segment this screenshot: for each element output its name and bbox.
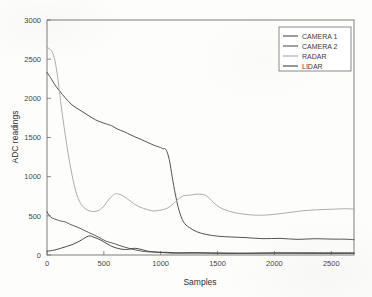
legend-label-camera-1: CAMERA 1 [302,33,338,40]
x-tick-label: 500 [98,259,111,268]
legend-label-lidar: LIDAR [302,63,323,70]
y-tick-label: 2500 [24,55,41,64]
x-tick-label: 0 [45,259,49,268]
x-tick-label: 2000 [266,259,283,268]
series-line-radar [47,47,354,215]
chart-legend: CAMERA 1CAMERA 2RADARLIDAR [279,27,351,71]
y-axis-title: ADC readings [10,111,20,164]
x-tick-label: 2500 [323,259,340,268]
chart-page: 050010001500200025003000 050010001500200… [0,0,372,297]
y-tick-label: 0 [37,251,41,260]
x-axis-title: Samples [183,277,216,287]
y-tick-label: 3000 [24,16,41,25]
series-group [47,47,354,253]
legend-label-camera-2: CAMERA 2 [302,43,338,50]
y-tick-label: 500 [28,212,41,221]
series-line-camera-1 [47,72,354,239]
y-tick-label: 1000 [24,172,41,181]
y-tick-label: 1500 [24,133,41,142]
x-tick-label: 1000 [152,259,169,268]
adc-readings-line-chart: 050010001500200025003000 050010001500200… [0,0,372,297]
x-tick-label: 1500 [209,259,226,268]
series-line-lidar [47,236,354,253]
legend-label-radar: RADAR [302,53,327,60]
y-tick-label: 2000 [24,94,41,103]
